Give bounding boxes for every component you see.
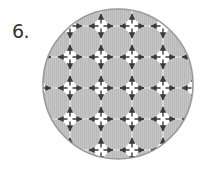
disc xyxy=(132,57,162,87)
disc xyxy=(70,150,100,173)
disc xyxy=(163,119,193,149)
disc-grid-diagram xyxy=(0,0,212,173)
disc xyxy=(101,119,131,149)
disc xyxy=(70,57,100,87)
disc xyxy=(101,26,131,56)
disc xyxy=(70,26,100,56)
disc xyxy=(132,119,162,149)
disc xyxy=(132,88,162,118)
disc xyxy=(163,0,193,26)
disc xyxy=(163,88,193,118)
clipped-field xyxy=(27,0,212,173)
disc xyxy=(194,57,212,87)
disc xyxy=(101,150,131,173)
disc xyxy=(163,26,193,56)
disc xyxy=(194,88,212,118)
disc xyxy=(70,88,100,118)
disc xyxy=(101,88,131,118)
disc xyxy=(194,119,212,149)
disc xyxy=(39,150,69,173)
disc xyxy=(132,0,162,26)
disc xyxy=(194,0,212,26)
disc xyxy=(163,150,193,173)
disc xyxy=(39,0,69,26)
disc xyxy=(194,150,212,173)
disc xyxy=(194,26,212,56)
disc xyxy=(101,0,131,26)
disc xyxy=(132,26,162,56)
disc xyxy=(101,57,131,87)
